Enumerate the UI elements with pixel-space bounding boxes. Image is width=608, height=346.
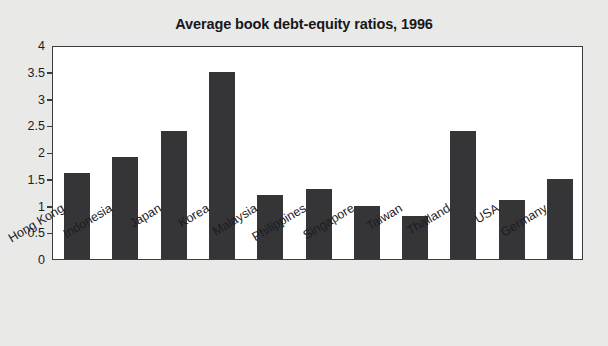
chart-figure: Average book debt-equity ratios, 1996 00…	[0, 0, 608, 346]
y-axis-tick: 2	[0, 146, 52, 160]
y-axis-tick: 2.5	[0, 119, 52, 133]
y-axis-tick: 4	[0, 39, 52, 53]
y-axis-tick: 3.5	[0, 66, 52, 80]
y-axis-tick: 3	[0, 93, 52, 107]
y-axis-tick: 1.5	[0, 173, 52, 187]
bar	[547, 179, 573, 259]
chart-title: Average book debt-equity ratios, 1996	[0, 16, 608, 32]
x-axis: Hong KongIndonesiaJapanKoreaMalaysiaPhil…	[52, 262, 583, 346]
y-axis-tick-label: 4	[38, 39, 52, 53]
